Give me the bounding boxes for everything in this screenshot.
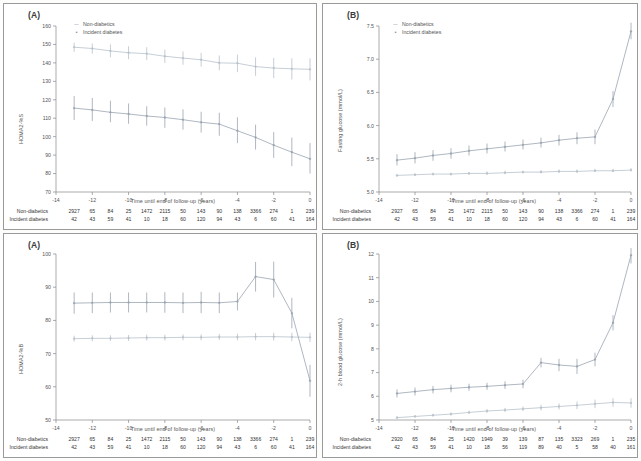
risk-count: 120	[197, 444, 206, 450]
risk-count: 41	[126, 216, 132, 222]
risk-count: 43	[412, 444, 418, 450]
panel-d-risk-table: Non-diabetics292065842514201949391398713…	[323, 436, 639, 452]
svg-text:8: 8	[371, 346, 374, 352]
panel-a-plot: 708090100110120130140150160-14-12-10-8-6…	[4, 4, 318, 231]
svg-text:10: 10	[368, 298, 374, 304]
risk-count: 18	[162, 444, 168, 450]
risk-table-row: Non-diabetics292765842514722115501439013…	[323, 208, 639, 216]
legend-label: Non-diabetics	[83, 21, 115, 27]
risk-count: 10	[144, 216, 150, 222]
legend-label: Incident diabetes	[402, 29, 441, 35]
risk-count: 42	[71, 216, 77, 222]
legend-item: ─Non-diabetics	[72, 20, 122, 28]
legend-item: •Incident diabetes	[391, 28, 441, 36]
risk-count: 138	[555, 208, 564, 214]
risk-count: 239	[306, 436, 315, 442]
risk-count: 274	[269, 208, 278, 214]
risk-count: 2920	[391, 436, 402, 442]
panel-c-xlabel: Time until end of follow-up (years)	[48, 426, 298, 432]
risk-table-row: Incident diabetes42435941101860120944366…	[323, 216, 639, 224]
svg-text:0: 0	[309, 425, 312, 431]
risk-count: 138	[233, 208, 242, 214]
svg-text:5.5: 5.5	[367, 156, 374, 162]
risk-count: 65	[89, 436, 95, 442]
risk-count: 40	[556, 444, 562, 450]
risk-count: 59	[108, 216, 114, 222]
risk-count: 60	[271, 444, 277, 450]
risk-count: 164	[306, 444, 315, 450]
legend-marker-incident-diabetes: •	[391, 28, 400, 36]
risk-count: 41	[610, 216, 616, 222]
panel-a: (A) HOMA2-%S 708090100110120130140150160…	[3, 3, 317, 230]
panel-a-legend: ─Non-diabetics•Incident diabetes	[72, 20, 122, 36]
svg-text:5.0: 5.0	[367, 189, 374, 195]
risk-count: 59	[108, 444, 114, 450]
risk-count: 120	[519, 216, 528, 222]
svg-text:100: 100	[42, 134, 51, 140]
risk-count: 1472	[141, 436, 152, 442]
figure-root: (A) HOMA2-%S 708090100110120130140150160…	[0, 0, 641, 461]
risk-count: 94	[538, 216, 544, 222]
risk-count: 1	[290, 208, 293, 214]
risk-count: 90	[538, 208, 544, 214]
risk-count: 3366	[250, 436, 261, 442]
risk-count: 274	[269, 436, 278, 442]
risk-count: 10	[466, 216, 472, 222]
risk-count: 60	[592, 216, 598, 222]
svg-text:70: 70	[45, 351, 51, 357]
risk-count: 25	[126, 208, 132, 214]
risk-row-label: Non-diabetics	[340, 208, 371, 214]
panel-d-xlabel: Time until end of follow-up (years)	[369, 426, 619, 432]
risk-count: 135	[555, 436, 564, 442]
risk-count: 1949	[481, 436, 492, 442]
risk-count: 25	[126, 436, 132, 442]
risk-row-label: Non-diabetics	[17, 436, 48, 442]
risk-count: 143	[197, 208, 206, 214]
risk-count: 5	[576, 444, 579, 450]
risk-count: 41	[448, 216, 454, 222]
risk-count: 164	[306, 216, 315, 222]
panel-b-xlabel: Time until end of follow-up (years)	[369, 198, 619, 204]
risk-count: 18	[484, 444, 490, 450]
risk-row-label: Non-diabetics	[340, 436, 371, 442]
risk-count: 2115	[482, 208, 493, 214]
risk-count: 60	[502, 216, 508, 222]
svg-text:0: 0	[630, 197, 633, 203]
risk-count: 40	[610, 444, 616, 450]
risk-count: 164	[627, 216, 636, 222]
risk-count: 1	[612, 436, 615, 442]
risk-count: 239	[627, 208, 636, 214]
risk-count: 60	[180, 216, 186, 222]
risk-count: 39	[502, 436, 508, 442]
risk-count: 6	[254, 444, 257, 450]
svg-text:90: 90	[45, 284, 51, 290]
panel-b: (B) Fasting glucose (mmol/L) 5.05.56.06.…	[322, 3, 638, 230]
risk-count: 2115	[159, 208, 170, 214]
svg-text:0: 0	[630, 425, 633, 431]
risk-count: 50	[180, 208, 186, 214]
legend-label: Incident diabetes	[83, 29, 122, 35]
risk-count: 90	[216, 436, 222, 442]
risk-count: 1420	[463, 436, 474, 442]
svg-text:6.5: 6.5	[367, 89, 374, 95]
risk-count: 143	[197, 436, 206, 442]
panel-b-plot: 5.05.56.06.57.07.5-14-12-10-8-6-4-20	[323, 4, 639, 231]
risk-count: 120	[197, 216, 206, 222]
risk-count: 43	[89, 216, 95, 222]
risk-row-label: Incident diabetes	[9, 216, 48, 222]
panel-a-xlabel: Time until end of follow-up (years)	[48, 198, 298, 204]
risk-count: 1	[612, 208, 615, 214]
risk-count: 43	[89, 444, 95, 450]
svg-text:60: 60	[45, 384, 51, 390]
risk-count: 84	[430, 208, 436, 214]
svg-text:140: 140	[42, 60, 51, 66]
risk-count: 18	[162, 216, 168, 222]
risk-count: 60	[271, 216, 277, 222]
risk-count: 84	[430, 436, 436, 442]
risk-count: 43	[412, 216, 418, 222]
risk-row-label: Non-diabetics	[17, 208, 48, 214]
svg-text:110: 110	[43, 115, 51, 121]
svg-text:90: 90	[45, 152, 51, 158]
risk-count: 274	[591, 208, 600, 214]
risk-count: 1	[290, 436, 293, 442]
